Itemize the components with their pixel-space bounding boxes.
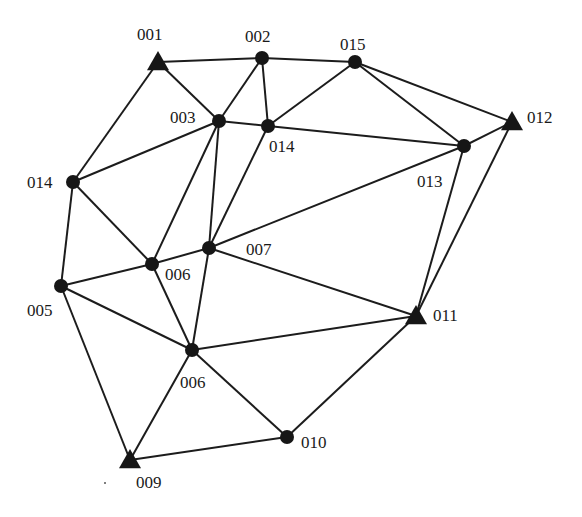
node-label-n015: 015	[340, 35, 366, 54]
triangle-node-icon	[147, 51, 169, 70]
edge-002-003	[219, 58, 262, 121]
edge-014-005	[61, 182, 73, 286]
edge-014-013	[268, 126, 464, 146]
triangle-node-icon	[501, 111, 523, 130]
edge-007-011	[209, 248, 416, 316]
circle-node-icon	[280, 430, 294, 444]
edge-006-011	[192, 316, 416, 350]
node-label-n005: 005	[27, 301, 53, 320]
node-label-n002: 002	[245, 27, 271, 46]
node-label-n006u: 006	[165, 265, 191, 284]
node-label-n010: 010	[301, 433, 327, 452]
node-label-n012: 012	[527, 108, 553, 127]
circle-node-icon	[66, 175, 80, 189]
edge-010-009	[130, 437, 287, 460]
circle-node-icon	[54, 279, 68, 293]
node-label-n009: 009	[136, 473, 162, 492]
edge-015-014	[268, 62, 355, 126]
node-label-n007: 007	[246, 240, 272, 259]
circle-node-icon	[202, 241, 216, 255]
edge-002-014	[262, 58, 268, 126]
edge-006-009	[130, 350, 192, 460]
node-label-n003: 003	[170, 108, 196, 127]
circle-node-icon	[145, 257, 159, 271]
edge-015-013	[355, 62, 464, 146]
edge-002-015	[262, 58, 355, 62]
edge-006-005	[61, 264, 152, 286]
node-layer	[54, 51, 523, 468]
circle-node-icon	[261, 119, 275, 133]
node-label-n001: 001	[137, 25, 163, 44]
circle-node-icon	[255, 51, 269, 65]
edge-005-009	[61, 286, 130, 460]
node-label-n014l: 014	[27, 173, 53, 192]
edge-014-006	[73, 182, 152, 264]
edge-015-012	[355, 62, 512, 122]
network-diagram: 0010020150030140120130140070060050110060…	[0, 0, 582, 517]
edge-005-006	[61, 286, 192, 350]
edge-006-007	[152, 248, 209, 264]
edge-003-014	[219, 121, 268, 126]
stray-dot	[104, 482, 106, 484]
node-label-n006l: 006	[180, 373, 206, 392]
node-label-n013: 013	[417, 172, 443, 191]
edge-013-007	[209, 146, 464, 248]
edge-layer	[61, 58, 512, 460]
circle-node-icon	[212, 114, 226, 128]
edge-006-010	[192, 350, 287, 437]
edge-011-010	[287, 316, 416, 437]
node-label-n011: 011	[433, 306, 458, 325]
triangle-node-icon	[405, 305, 427, 324]
edge-007-006	[192, 248, 209, 350]
circle-node-icon	[348, 55, 362, 69]
circle-node-icon	[185, 343, 199, 357]
edge-001-002	[158, 58, 262, 62]
label-layer: 0010020150030140120130140070060050110060…	[27, 25, 553, 492]
node-label-n014r: 014	[269, 137, 295, 156]
circle-node-icon	[457, 139, 471, 153]
